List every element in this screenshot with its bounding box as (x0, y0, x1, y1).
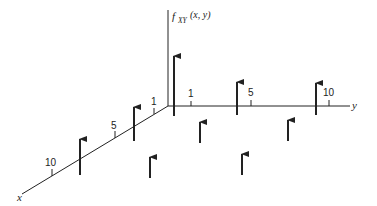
svg-text:(x, y): (x, y) (190, 9, 211, 21)
joint-pmf-impulse-diagram: f XY (x, y) y x 1 5 10 1 5 10 (0, 0, 377, 206)
x-axis (22, 106, 168, 194)
y-tick-label: 5 (248, 87, 254, 98)
x-tick-label: 1 (151, 96, 157, 107)
svg-text:XY: XY (177, 16, 188, 25)
x-tick-label: 10 (45, 157, 57, 168)
y-axis-label: y (351, 99, 357, 111)
x-tick-label: 5 (111, 120, 117, 131)
x-axis-label: x (16, 191, 22, 203)
svg-text:f: f (172, 10, 177, 22)
impulses (80, 56, 316, 178)
y-tick-label: 1 (188, 88, 194, 99)
function-label: f XY (x, y) (172, 9, 211, 25)
y-axis-ticks: 1 5 10 (188, 87, 335, 106)
axes (22, 10, 350, 194)
y-tick-label: 10 (323, 87, 335, 98)
x-axis-ticks: 1 5 10 (45, 96, 157, 176)
